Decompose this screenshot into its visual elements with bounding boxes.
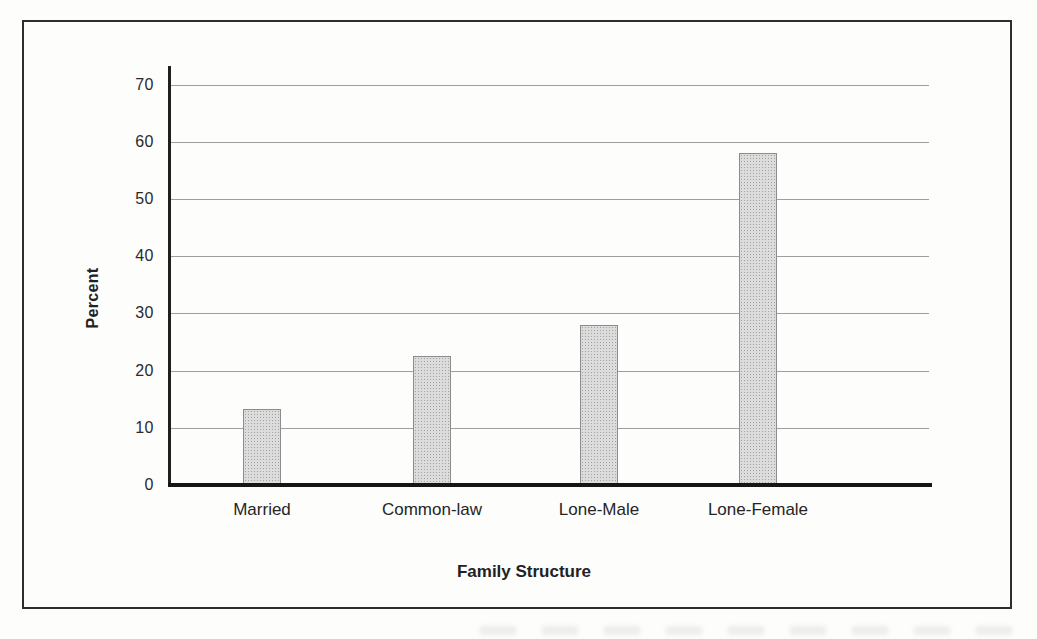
bar-common-law	[413, 356, 451, 485]
x-axis-line	[168, 483, 932, 487]
bar-lone-female	[739, 153, 777, 485]
gridline-40	[171, 256, 929, 257]
gridline-60	[171, 142, 929, 143]
bar-married	[243, 409, 281, 485]
gridline-70	[171, 85, 929, 86]
y-tick-label-20: 20	[104, 362, 154, 380]
gridline-30	[171, 313, 929, 314]
scanned-page: Percent 010203040506070 MarriedCommon-la…	[0, 0, 1037, 639]
gridline-10	[171, 428, 929, 429]
x-tick-label-lone-female: Lone-Female	[683, 500, 833, 520]
y-tick-label-40: 40	[104, 247, 154, 265]
gridline-50	[171, 199, 929, 200]
y-tick-label-70: 70	[104, 76, 154, 94]
x-tick-label-common-law: Common-law	[357, 500, 507, 520]
y-tick-label-50: 50	[104, 190, 154, 208]
figure-frame: Percent 010203040506070 MarriedCommon-la…	[22, 20, 1012, 609]
y-tick-label-0: 0	[104, 476, 154, 494]
x-axis-title: Family Structure	[374, 562, 674, 582]
scan-smudge-artifact	[480, 626, 1032, 635]
bar-lone-male	[580, 325, 618, 485]
y-tick-label-30: 30	[104, 304, 154, 322]
gridline-20	[171, 371, 929, 372]
y-axis-line	[168, 66, 171, 487]
y-axis-title: Percent	[84, 226, 104, 370]
y-tick-label-60: 60	[104, 133, 154, 151]
y-tick-label-10: 10	[104, 419, 154, 437]
x-tick-label-lone-male: Lone-Male	[524, 500, 674, 520]
x-tick-label-married: Married	[187, 500, 337, 520]
